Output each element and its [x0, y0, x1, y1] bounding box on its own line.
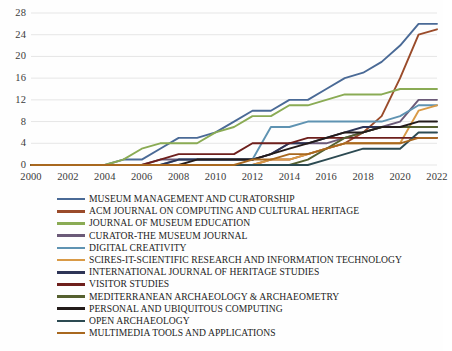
y-axis-tick-label: 20 — [0, 51, 26, 61]
y-axis-tick-label: 24 — [0, 30, 26, 40]
legend-item[interactable]: JOURNAL OF MUSEUM EDUCATION — [0, 217, 443, 229]
x-axis-tick-label: 2000 — [15, 171, 47, 182]
legend-item[interactable]: OPEN ARCHAEOLOGY — [0, 315, 443, 327]
legend-color-swatch — [57, 210, 85, 213]
x-axis-tick-label: 2022 — [421, 171, 452, 182]
x-axis-tick-label: 2014 — [273, 171, 305, 182]
legend-item-label: VISITOR STUDIES — [89, 279, 169, 289]
legend-item-label: MEDITERRANEAN ARCHAEOLOGY & ARCHAEOMETRY — [89, 292, 339, 302]
legend-item-label: SCIRES-IT-SCIENTIFIC RESEARCH AND INFORM… — [89, 255, 402, 265]
x-axis-tick-label: 2016 — [310, 171, 342, 182]
chart-legend: MUSEUM MANAGEMENT AND CURATORSHIPACM JOU… — [0, 193, 443, 351]
legend-color-swatch — [57, 320, 85, 323]
legend-item[interactable]: SCIRES-IT-SCIENTIFIC RESEARCH AND INFORM… — [0, 254, 443, 266]
legend-color-swatch — [57, 295, 85, 298]
legend-item-label: DIGITAL CREATIVITY — [89, 243, 187, 253]
x-axis-tick-label: 2012 — [236, 171, 268, 182]
series-line — [31, 100, 437, 165]
legend-item[interactable]: INTERNATIONAL JOURNAL OF HERITAGE STUDIE… — [0, 266, 443, 278]
legend-color-swatch — [57, 247, 85, 250]
legend-item[interactable]: CURATOR-THE MUSEUM JOURNAL — [0, 230, 443, 242]
legend-color-swatch — [57, 234, 85, 237]
series-line — [31, 29, 437, 165]
legend-item-label: JOURNAL OF MUSEUM EDUCATION — [89, 218, 250, 228]
x-axis-tick-label: 2004 — [89, 171, 121, 182]
legend-item[interactable]: MULTIMEDIA TOOLS AND APPLICATIONS — [0, 327, 443, 339]
legend-item-label: INTERNATIONAL JOURNAL OF HERITAGE STUDIE… — [89, 267, 319, 277]
x-axis-tick-label: 2006 — [126, 171, 158, 182]
legend-color-swatch — [57, 222, 85, 225]
line-chart-svg — [0, 0, 443, 192]
legend-color-swatch — [57, 259, 85, 262]
x-axis-tick-label: 2008 — [163, 171, 195, 182]
series-line — [31, 105, 437, 165]
y-axis-tick-label: 12 — [0, 95, 26, 105]
x-axis-tick-label: 2002 — [52, 171, 84, 182]
legend-color-swatch — [57, 271, 85, 274]
legend-item-label: PERSONAL AND UBIQUITOUS COMPUTING — [89, 304, 283, 314]
legend-color-swatch — [57, 198, 85, 201]
gridlines — [31, 13, 437, 165]
legend-item-label: MUSEUM MANAGEMENT AND CURATORSHIP — [89, 194, 295, 204]
series-line — [31, 138, 437, 165]
series-line — [31, 105, 437, 165]
legend-color-swatch — [57, 307, 85, 310]
legend-color-swatch — [57, 283, 85, 286]
legend-item[interactable]: ACM JOURNAL ON COMPUTING AND CULTURAL HE… — [0, 205, 443, 217]
plot-area: 0481216202428 20002002200420062008201020… — [0, 0, 443, 192]
legend-item[interactable]: MUSEUM MANAGEMENT AND CURATORSHIP — [0, 193, 443, 205]
y-axis-tick-label: 8 — [0, 117, 26, 127]
legend-item[interactable]: MEDITERRANEAN ARCHAEOLOGY & ARCHAEOMETRY — [0, 291, 443, 303]
y-axis-tick-label: 28 — [0, 8, 26, 18]
y-axis-tick-label: 16 — [0, 73, 26, 83]
series-lines — [31, 24, 437, 165]
y-axis-tick-label: 4 — [0, 138, 26, 148]
legend-item[interactable]: DIGITAL CREATIVITY — [0, 242, 443, 254]
series-line — [31, 138, 437, 165]
legend-item-label: ACM JOURNAL ON COMPUTING AND CULTURAL HE… — [89, 206, 359, 216]
legend-item-label: OPEN ARCHAEOLOGY — [89, 316, 190, 326]
legend-item-label: CURATOR-THE MUSEUM JOURNAL — [89, 231, 247, 241]
x-axis-tick-label: 2010 — [200, 171, 232, 182]
legend-item-label: MULTIMEDIA TOOLS AND APPLICATIONS — [89, 328, 276, 338]
legend-color-swatch — [57, 332, 85, 335]
legend-item[interactable]: VISITOR STUDIES — [0, 278, 443, 290]
x-axis-tick-label: 2018 — [347, 171, 379, 182]
legend-item[interactable]: PERSONAL AND UBIQUITOUS COMPUTING — [0, 303, 443, 315]
y-axis-tick-label: 0 — [0, 160, 26, 170]
x-axis-tick-label: 2020 — [384, 171, 416, 182]
